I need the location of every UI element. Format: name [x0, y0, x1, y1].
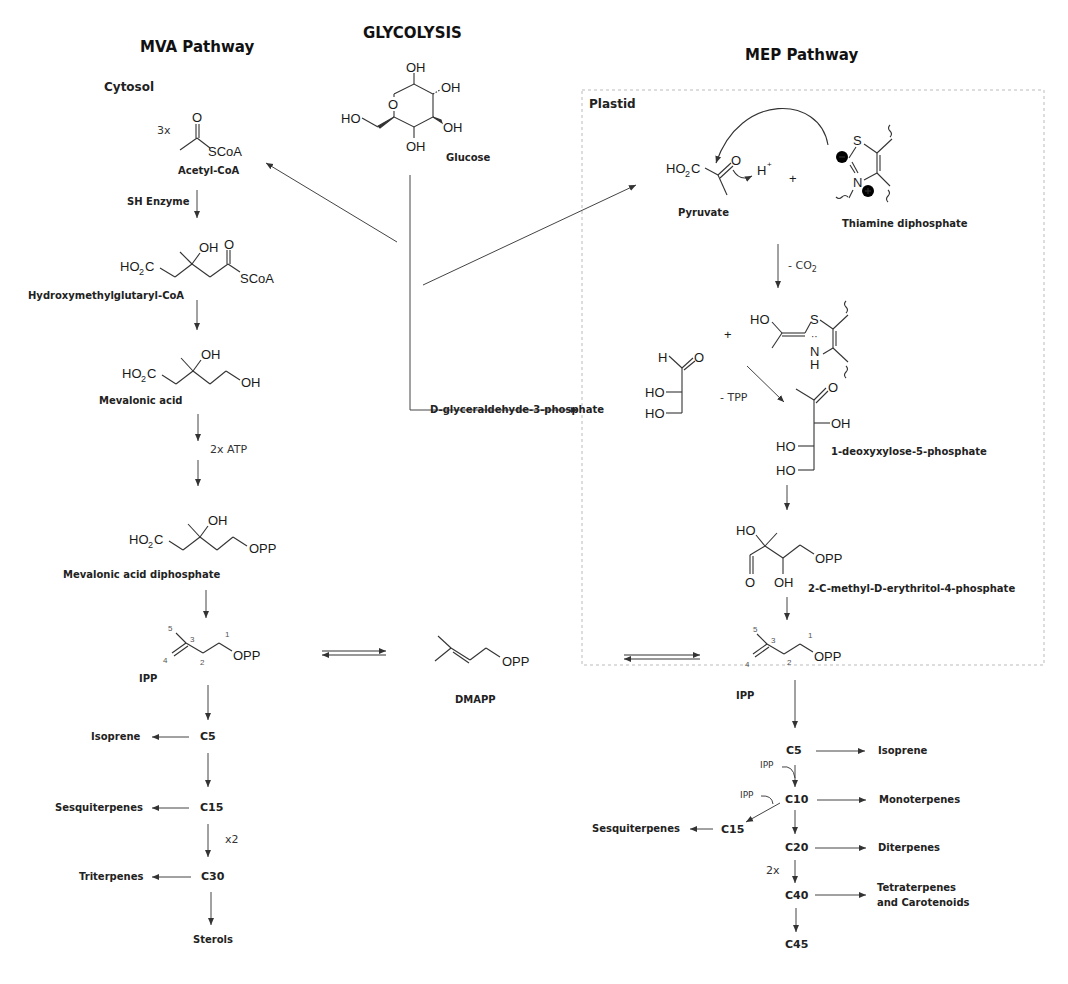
- mep-c40-node: C40: [785, 889, 808, 902]
- plastid-box: [582, 90, 1044, 665]
- svg-text:HO: HO: [129, 532, 149, 547]
- mep-c15-node: C15: [721, 823, 744, 836]
- mevalonic-acid-diphosphate-label: Mevalonic acid diphosphate: [63, 569, 220, 580]
- dmapp-structure: OPP: [435, 636, 529, 669]
- thiamine-diphosphate-structure: S N: [836, 125, 892, 202]
- svg-text:5: 5: [168, 624, 173, 633]
- acetyl-coa-label: Acetyl-CoA: [178, 165, 239, 176]
- svg-text:OH: OH: [199, 240, 219, 255]
- mva-triterpenes-label: Triterpenes: [79, 871, 143, 882]
- svg-text:H: H: [810, 357, 819, 372]
- ipp-mep-structure: OPP 5 3 4 2 1: [745, 625, 841, 669]
- svg-text:HO: HO: [750, 312, 770, 327]
- mva-c30-node: C30: [201, 870, 224, 883]
- cytosol-label: Cytosol: [104, 80, 154, 94]
- acetyl-coa-structure: O SCoA: [180, 110, 242, 159]
- svg-text:1: 1: [225, 630, 230, 639]
- svg-text:O: O: [745, 575, 755, 590]
- glycolysis-title: GLYCOLYSIS: [363, 24, 462, 42]
- glucose-structure: O OH OH OH OH HO: [341, 60, 463, 154]
- svg-text:HO: HO: [736, 523, 756, 538]
- mevalonic-acid-diphosphate-structure: HO 2 C OH OPP: [129, 513, 276, 556]
- svg-text:S: S: [810, 312, 819, 327]
- svg-text:2: 2: [685, 169, 690, 179]
- svg-text:HO: HO: [122, 366, 142, 381]
- mep-pathway-title: MEP Pathway: [745, 46, 858, 64]
- svg-text:OH: OH: [441, 80, 461, 95]
- svg-text:2: 2: [148, 540, 153, 550]
- hmg-coa-structure: HO 2 C OH O SCoA: [120, 237, 274, 286]
- mep-structure: HO O OH OPP: [736, 523, 842, 590]
- svg-text:C: C: [147, 366, 156, 381]
- mevalonic-acid-structure: HO 2 C OH OH: [122, 347, 261, 390]
- mep-2x-note: 2x: [766, 864, 780, 877]
- enamine-tpp-adduct-structure: HO S N ·· H: [750, 301, 848, 378]
- svg-text:OH: OH: [406, 60, 426, 75]
- svg-text:O: O: [224, 237, 234, 252]
- svg-text:OPP: OPP: [814, 649, 841, 664]
- mva-pathway-title: MVA Pathway: [140, 38, 254, 56]
- svg-text:4: 4: [163, 656, 168, 665]
- hmg-coa-label: Hydroxymethylglutaryl-CoA: [28, 290, 184, 301]
- mep-carotenoids-label: and Carotenoids: [877, 897, 970, 908]
- svg-text:HO: HO: [776, 439, 796, 454]
- svg-text:OH: OH: [241, 375, 261, 390]
- svg-text:3: 3: [190, 635, 195, 644]
- svg-text:HO: HO: [645, 406, 665, 421]
- dxp-structure: O OH HO HO: [776, 380, 851, 478]
- svg-text:O: O: [694, 350, 704, 365]
- acetyl-coa-multiplier: 3x: [157, 124, 171, 137]
- svg-text:+: +: [724, 327, 732, 342]
- mep-monoterpenes-label: Monoterpenes: [879, 794, 960, 805]
- ipp-mep-label: IPP: [736, 690, 754, 701]
- svg-text:OPP: OPP: [249, 541, 276, 556]
- plastid-label: Plastid: [589, 97, 636, 111]
- svg-text:HO: HO: [776, 463, 796, 478]
- mva-sterols-label: Sterols: [193, 934, 233, 945]
- decarboxylation-note: - CO2: [788, 259, 817, 274]
- svg-text:OH: OH: [443, 120, 463, 135]
- svg-text:OH: OH: [774, 575, 794, 590]
- mva-c5-node: C5: [200, 730, 216, 743]
- svg-text:2: 2: [139, 267, 144, 277]
- svg-text:3: 3: [771, 636, 776, 645]
- ipp-mva-structure: OPP 5 3 4 2 1: [163, 624, 260, 667]
- ipp-mva-label: IPP: [139, 673, 157, 684]
- svg-text:+: +: [789, 171, 797, 186]
- mevalonic-acid-label: Mevalonic acid: [99, 395, 183, 406]
- isoprenoid-pathway-diagram: O SCoA HO 2 C OH O SCoA HO 2 C: [0, 0, 1068, 984]
- glucose-label: Glucose: [446, 152, 490, 163]
- svg-text:OPP: OPP: [815, 551, 842, 566]
- mep-diterpenes-label: Diterpenes: [878, 842, 940, 853]
- svg-text:HO: HO: [341, 111, 361, 126]
- svg-text:1: 1: [808, 631, 813, 640]
- svg-text:OH: OH: [831, 416, 851, 431]
- glyceraldehyde-3-phosphate-structure: H O HO HO: [645, 350, 704, 421]
- atp-note: 2x ATP: [210, 443, 247, 456]
- dxp-label: 1-deoxyxylose-5-phosphate: [831, 446, 987, 457]
- svg-text:5: 5: [753, 625, 758, 634]
- sh-enzyme-note: SH Enzyme: [127, 196, 190, 207]
- svg-text:O: O: [731, 153, 741, 168]
- pyruvate-structure: HO 2 C O H + +: [666, 153, 797, 195]
- g3p-label: D-glyceraldehyde-3-phosphate: [430, 404, 604, 415]
- pyruvate-label: Pyruvate: [678, 207, 729, 218]
- mep-c10-node: C10: [785, 793, 808, 806]
- svg-text:H: H: [757, 163, 766, 178]
- mva-isoprene-label: Isoprene: [91, 731, 140, 742]
- svg-text:C: C: [691, 161, 700, 176]
- equilibrium-arrow-right: [624, 655, 700, 659]
- svg-text:O: O: [192, 110, 202, 125]
- mep-label: 2-C-methyl-D-erythritol-4-phosphate: [808, 583, 1015, 594]
- svg-text:OPP: OPP: [233, 648, 260, 663]
- svg-text:C: C: [145, 259, 154, 274]
- svg-text:OH: OH: [208, 513, 228, 528]
- svg-text:HO: HO: [666, 161, 686, 176]
- mep-tetraterpenes-label: Tetraterpenes: [877, 882, 956, 893]
- svg-text:SCoA: SCoA: [208, 144, 242, 159]
- svg-text:H: H: [658, 350, 667, 365]
- mep-ipp-addition-2: IPP: [740, 790, 754, 800]
- svg-text:S: S: [853, 133, 862, 148]
- equilibrium-arrow-left: [322, 651, 386, 655]
- mep-c5-node: C5: [786, 744, 802, 757]
